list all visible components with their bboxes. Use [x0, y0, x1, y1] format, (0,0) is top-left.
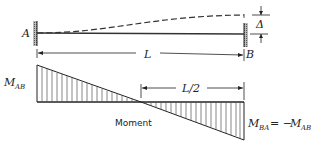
- fixed-support-b: [244, 23, 248, 47]
- moment-caption: Moment: [115, 118, 152, 128]
- beam-line: [37, 33, 244, 34]
- moment-diagram: [37, 65, 244, 140]
- span-label: L: [143, 48, 151, 61]
- m-ba-subscript: BA: [258, 124, 269, 132]
- half-span-label: L/2: [181, 82, 200, 95]
- equals-minus: = −: [270, 117, 292, 130]
- fixed-support-a: [33, 21, 37, 46]
- beam-diagram: Δ A B L: [0, 0, 319, 152]
- m-ab-rhs-subscript: AB: [300, 124, 311, 132]
- m-ab-subscript: AB: [14, 83, 25, 91]
- displacement-label: Δ: [255, 18, 264, 31]
- end-b-label: B: [245, 48, 254, 61]
- end-a-label: A: [21, 27, 30, 40]
- deflected-shape: [37, 15, 244, 33]
